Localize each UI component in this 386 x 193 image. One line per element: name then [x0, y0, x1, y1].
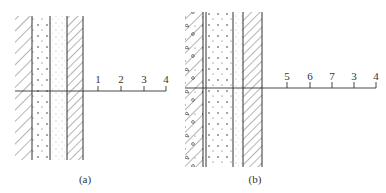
insulation-layer	[233, 12, 243, 167]
axis-label: 3	[141, 73, 147, 85]
axis-label: 3	[351, 70, 357, 82]
axis-label: 1	[95, 73, 101, 85]
insulation-layer	[50, 16, 67, 160]
axis-label: 4	[163, 73, 169, 85]
caption-a: (a)	[79, 173, 92, 186]
outer-wall-layer	[67, 16, 83, 160]
figure-b: 5 6 7 3 4 (b)	[185, 12, 379, 186]
concrete-wall-aggregate	[185, 12, 203, 167]
axis-label: 2	[118, 73, 124, 85]
axis-label: 7	[329, 70, 335, 82]
figure-a: 1 2 3 4 (a)	[15, 16, 169, 186]
outer-wall-layer	[243, 12, 262, 167]
axis-label: 6	[307, 70, 313, 82]
plaster-layer	[32, 16, 50, 160]
caption-b: (b)	[249, 173, 262, 186]
plaster-layer	[206, 12, 233, 167]
axis-label: 5	[284, 70, 290, 82]
axis-label: 4	[373, 70, 379, 82]
wall-section-diagram: 1 2 3 4 (a) 5 6 7 3 4 (b)	[0, 0, 386, 193]
brick-wall-layer	[15, 16, 32, 160]
